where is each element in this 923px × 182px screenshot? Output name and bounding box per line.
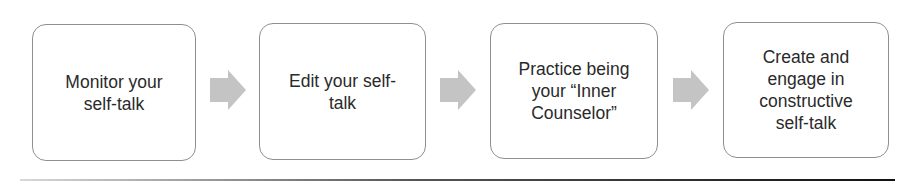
step-label: Practice being your “Inner Counselor”	[519, 58, 630, 124]
step-box-edit: Edit your self- talk	[259, 23, 426, 160]
step-label: Create and engage in constructive self-t…	[759, 46, 852, 134]
arrow-right-icon	[673, 70, 709, 110]
bottom-divider	[20, 179, 895, 181]
arrow-right-icon	[210, 70, 246, 110]
step-box-monitor: Monitor your self-talk	[32, 24, 196, 161]
arrow-right-icon	[440, 70, 476, 110]
step-box-practice: Practice being your “Inner Counselor”	[490, 23, 658, 159]
step-box-create: Create and engage in constructive self-t…	[723, 22, 889, 158]
step-label: Monitor your self-talk	[65, 71, 162, 115]
step-label: Edit your self- talk	[289, 70, 396, 114]
